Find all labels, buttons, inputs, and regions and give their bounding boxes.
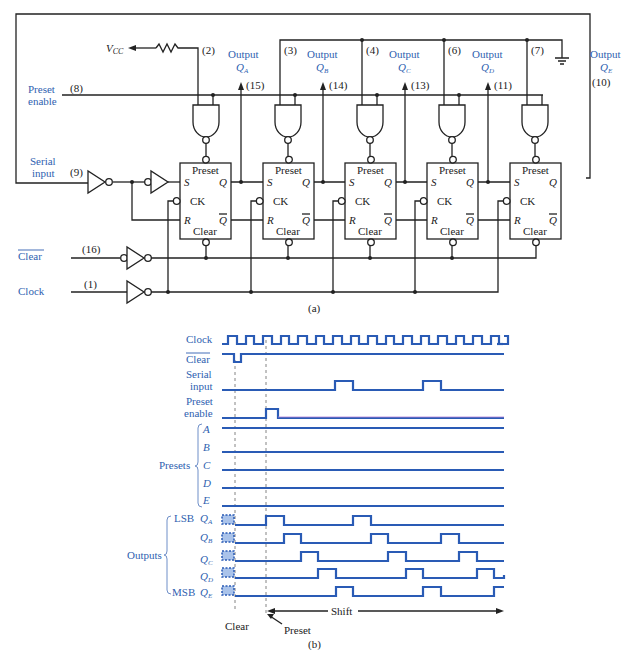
qc-waveform (235, 552, 504, 561)
clear-input-label: Clear (18, 250, 42, 262)
svg-text:Preset: Preset (357, 164, 384, 176)
svg-text:Q: Q (549, 176, 557, 188)
qb-waveform (235, 534, 504, 543)
svg-text:input: input (190, 380, 213, 392)
svg-text:Q: Q (384, 214, 392, 226)
msb-label: MSB (172, 586, 195, 598)
circuit-diagram: VCC (2) (3) (4) (6) (7) Preset enable (8… (16, 14, 621, 315)
svg-text:Clear: Clear (440, 225, 464, 237)
svg-text:Q: Q (219, 176, 227, 188)
svg-text:Preset: Preset (192, 164, 219, 176)
clear-marker-label: Clear (225, 620, 249, 632)
lsb-label: LSB (174, 512, 194, 524)
svg-text:D: D (202, 477, 211, 489)
svg-text:R: R (430, 214, 438, 226)
svg-text:QB: QB (200, 531, 213, 545)
serial-input-label: Serial (30, 155, 56, 167)
svg-text:E: E (202, 494, 210, 506)
nand-gate-e (522, 95, 548, 143)
vcc-label: VCC (106, 42, 124, 56)
pin-4-label: (4) (366, 44, 379, 57)
presets-brace (195, 424, 202, 507)
svg-text:(14): (14) (329, 79, 348, 92)
svg-text:Output: Output (389, 48, 420, 60)
shift-arrow-left-icon (267, 608, 275, 614)
unknown-state-boxes (222, 515, 234, 595)
svg-text:(11): (11) (494, 79, 512, 92)
svg-text:S: S (514, 176, 520, 188)
svg-text:(10): (10) (592, 76, 611, 89)
svg-text:CK: CK (437, 195, 452, 207)
nand-gate-b (275, 93, 301, 143)
svg-text:S: S (431, 176, 437, 188)
svg-text:QD: QD (200, 570, 213, 584)
nand-gate-a (193, 93, 219, 143)
svg-text:A: A (202, 423, 210, 435)
svg-text:QE: QE (200, 586, 213, 600)
clock-input-label: Clock (18, 285, 45, 297)
svg-text:C: C (203, 459, 211, 471)
shift-register-figure: VCC (2) (3) (4) (6) (7) Preset enable (8… (0, 0, 632, 650)
svg-text:(13): (13) (411, 79, 430, 92)
svg-text:R: R (183, 214, 191, 226)
pin-1-label: (1) (84, 278, 97, 291)
svg-text:S: S (184, 176, 190, 188)
shift-arrow-right-icon (496, 608, 504, 614)
outputs-brace (164, 516, 171, 594)
clear-waveform (222, 354, 504, 362)
flip-flop-e: Preset S Q CK R Q Clear (503, 156, 561, 245)
svg-text:enable: enable (28, 95, 57, 107)
pin-16-label: (16) (82, 243, 101, 256)
svg-text:Clear: Clear (358, 225, 382, 237)
preset-enable-label: Preset (28, 83, 55, 95)
svg-text:Clear: Clear (276, 225, 300, 237)
shift-label: Shift (331, 605, 352, 617)
buffer-serial-icon (151, 171, 168, 193)
svg-text:QE: QE (600, 61, 613, 75)
clear-signal-label: Clear (186, 353, 210, 365)
pin-6-label: (6) (448, 44, 461, 57)
svg-text:QA: QA (200, 512, 213, 526)
svg-text:QA: QA (236, 61, 249, 75)
clock-waveform (222, 336, 508, 344)
presets-group-label: Presets (159, 459, 190, 471)
svg-text:QC: QC (398, 61, 411, 75)
part-b-caption: (b) (308, 638, 321, 650)
nand-gate-c (357, 93, 383, 143)
pin-3-label: (3) (284, 44, 297, 57)
qa-waveform (235, 516, 504, 525)
svg-text:Q: Q (219, 214, 227, 226)
svg-text:Preset: Preset (522, 164, 549, 176)
flip-flop-d: Preset S Q CK R Q Clear (420, 156, 478, 245)
preset-enable-signal-label: Preset (186, 395, 213, 407)
inverter-serial-icon (88, 171, 105, 193)
nand-gates (193, 93, 548, 143)
flip-flop-c: Preset S Q CK R Q Clear (338, 156, 396, 245)
flip-flop-b: Preset S Q CK R Q Clear (256, 156, 314, 245)
resistor-icon (156, 44, 198, 105)
timing-diagram: Clock Clear Serial input Preset enable A… (127, 333, 508, 650)
serial-signal-label: Serial (186, 368, 212, 380)
svg-text:QC: QC (200, 553, 213, 567)
svg-text:R: R (513, 214, 521, 226)
svg-text:QB: QB (316, 61, 329, 75)
svg-text:CK: CK (273, 195, 288, 207)
svg-text:Q: Q (466, 176, 474, 188)
svg-text:Q: Q (549, 214, 557, 226)
svg-text:B: B (203, 441, 210, 453)
svg-text:QD: QD (481, 61, 494, 75)
outputs-group-label: Outputs (127, 549, 162, 561)
flip-flop-a: Preset S Q CK R Q Clear (173, 156, 231, 245)
svg-text:(15): (15) (246, 79, 265, 92)
qd-waveform (235, 569, 504, 578)
serial-input-waveform (222, 381, 504, 390)
svg-text:Clear: Clear (193, 225, 217, 237)
svg-text:Preset: Preset (275, 164, 302, 176)
svg-text:R: R (266, 214, 274, 226)
svg-text:Output: Output (472, 48, 503, 60)
nand-gate-d (439, 93, 465, 143)
pin-7-label: (7) (531, 44, 544, 57)
pin-8-label: (8) (70, 82, 83, 95)
svg-text:Q: Q (384, 176, 392, 188)
svg-text:S: S (267, 176, 273, 188)
